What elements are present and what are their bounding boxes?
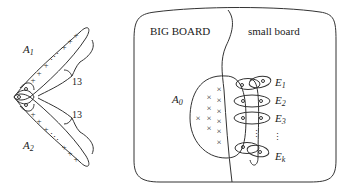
svg-text:⋱: ⋱ (50, 132, 59, 142)
vertex-lower (25, 104, 28, 107)
vertex-upper (25, 88, 28, 91)
vertex-shared (18, 96, 21, 99)
svg-text:×: × (216, 137, 221, 147)
svg-text:+: + (67, 148, 72, 158)
brace-label-lower: 13 (72, 109, 82, 120)
svg-text:+: + (36, 68, 41, 78)
brace-label-upper: 13 (72, 76, 82, 87)
left-figure: + + + ⋰ + + + + + + ⋱ + + + A1 A2 13 13 (14, 28, 93, 167)
svg-text:E1: E1 (274, 76, 286, 90)
svg-text:+: + (36, 116, 41, 126)
svg-text:+: + (61, 42, 66, 52)
label-a1: A1 (22, 43, 34, 57)
diagram-canvas: + + + ⋰ + + + + + + ⋱ + + + A1 A2 13 13 (0, 0, 337, 190)
edge-e3: E3 (234, 112, 286, 126)
svg-text:×: × (195, 113, 200, 123)
svg-text:×: × (206, 123, 211, 133)
svg-text:×: × (206, 103, 211, 113)
svg-text:+: + (43, 60, 48, 70)
svg-text:×: × (216, 84, 221, 94)
label-a2: A2 (22, 139, 34, 153)
svg-text:×: × (206, 92, 211, 102)
svg-text:×: × (216, 126, 221, 136)
edge-ek: Ek (235, 143, 286, 165)
svg-text:+: + (73, 30, 78, 40)
cross-marks: × × × × × × × × × × × (195, 84, 221, 147)
svg-text:+: + (67, 36, 72, 46)
svg-text:+: + (30, 109, 35, 119)
svg-text:+: + (61, 142, 66, 152)
ellipsis-labels: ⋮ (273, 132, 282, 142)
edge-e1: E1 (236, 75, 286, 90)
svg-text:+: + (30, 75, 35, 85)
right-figure: BIG BOARD small board A0 × × × × × × × ×… (134, 8, 336, 183)
label-a0: A0 (171, 93, 183, 107)
ellipsis-vertices: ⋮ (252, 129, 261, 139)
edge-e2: E2 (234, 94, 286, 108)
svg-text:×: × (216, 106, 221, 116)
svg-text:×: × (216, 116, 221, 126)
svg-text:E2: E2 (274, 94, 286, 108)
board-divider (222, 10, 232, 182)
svg-text:×: × (216, 95, 221, 105)
small-board-label: small board (248, 25, 300, 37)
svg-text:Ek: Ek (274, 150, 286, 164)
svg-text:×: × (206, 113, 211, 123)
svg-text:+: + (43, 124, 48, 134)
svg-text:+: + (73, 154, 78, 164)
svg-text:E3: E3 (274, 112, 286, 126)
svg-text:⋰: ⋰ (50, 52, 59, 62)
big-board-label: BIG BOARD (150, 25, 210, 37)
